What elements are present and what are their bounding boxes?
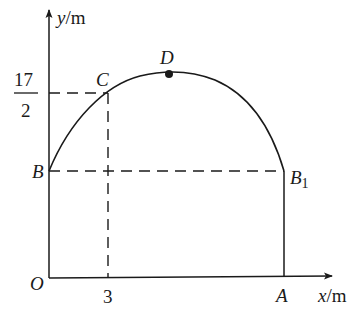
origin-label: O [30, 273, 44, 294]
y-tick-denominator: 2 [21, 100, 31, 121]
x-axis [49, 276, 332, 278]
point-d-label: D [159, 47, 174, 68]
point-b-label: B [32, 161, 44, 182]
point-d-marker [165, 70, 173, 78]
diagram-canvas: y/m x/m O 3 17 2 B C D B1 A [0, 0, 359, 325]
point-c-label: C [96, 69, 109, 90]
point-a-label: A [274, 285, 288, 306]
y-axis-label: y/m [55, 7, 86, 28]
y-tick-numerator: 17 [14, 69, 33, 90]
x-tick-3: 3 [103, 286, 113, 307]
parabola-curve [49, 72, 284, 171]
point-b1-label: B1 [290, 167, 309, 191]
x-axis-label: x/m [317, 285, 347, 306]
